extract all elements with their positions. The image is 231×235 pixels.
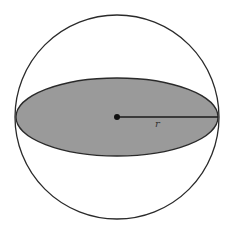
center-point: [114, 114, 120, 120]
sphere-diagram: r: [0, 0, 231, 235]
